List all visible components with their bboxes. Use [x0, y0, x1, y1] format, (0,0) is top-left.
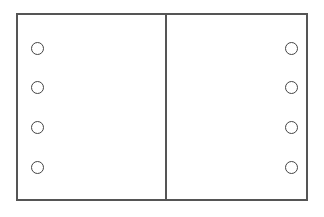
left-punch-hole-icon — [31, 42, 44, 55]
left-punch-hole-icon — [31, 81, 44, 94]
left-punch-hole-icon — [31, 121, 44, 134]
center-fold-divider — [165, 13, 167, 201]
sheet-frame — [16, 13, 308, 201]
left-punch-hole-icon — [31, 161, 44, 174]
right-punch-hole-icon — [285, 42, 298, 55]
right-punch-hole-icon — [285, 81, 298, 94]
right-punch-hole-icon — [285, 121, 298, 134]
right-punch-hole-icon — [285, 161, 298, 174]
